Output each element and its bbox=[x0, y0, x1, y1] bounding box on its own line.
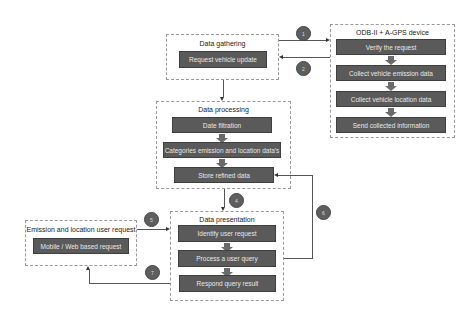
arrow-head-icon bbox=[326, 38, 330, 42]
connector-4-line bbox=[224, 189, 225, 207]
step-identify-request[interactable]: Identify user request bbox=[178, 225, 276, 242]
step-send-info[interactable]: Send collected information bbox=[336, 117, 446, 133]
connector-3-line bbox=[223, 80, 224, 97]
group-user-request: Emission and location user request Mobil… bbox=[25, 220, 137, 266]
step-mobile-web-request[interactable]: Mobile / Web based request bbox=[33, 238, 129, 254]
connector-6-line bbox=[284, 258, 312, 259]
step-store-refined[interactable]: Store refined data bbox=[174, 167, 274, 183]
connector-7-line bbox=[89, 283, 170, 284]
step-request-vehicle-update[interactable]: Request vehicle update bbox=[179, 51, 267, 68]
arrow-head-icon bbox=[274, 173, 278, 177]
group-title: Data processing bbox=[157, 106, 290, 113]
arrow-head-icon bbox=[166, 227, 170, 231]
step-number-badge-4: 4 bbox=[229, 193, 244, 208]
step-respond-result[interactable]: Respond query result bbox=[179, 275, 276, 292]
arrow-head-icon bbox=[221, 207, 225, 211]
connector-6-line bbox=[312, 175, 313, 259]
step-date-filtration[interactable]: Date filtration bbox=[172, 117, 272, 133]
group-title: ODB-II + A-GPS device bbox=[331, 29, 454, 36]
step-categories-data[interactable]: Categories emission and location data's bbox=[163, 142, 281, 158]
step-number-badge-6: 6 bbox=[316, 205, 331, 220]
arrow-head-icon bbox=[86, 266, 90, 270]
group-data-presentation: Data presentation Identify user request … bbox=[170, 211, 284, 301]
connector-5-line bbox=[137, 229, 167, 230]
group-title: Data presentation bbox=[171, 216, 283, 223]
connector-2-line bbox=[283, 57, 330, 58]
step-verify-request[interactable]: Verify the request bbox=[336, 39, 446, 55]
group-odb-device: ODB-II + A-GPS device Verify the request… bbox=[330, 24, 455, 138]
connector-6-line bbox=[278, 175, 313, 176]
step-number-badge-7: 7 bbox=[145, 265, 160, 280]
connector-7-line bbox=[89, 270, 90, 284]
group-title: Data gathering bbox=[167, 40, 278, 47]
step-collect-location[interactable]: Collect vehicle location data bbox=[336, 91, 446, 107]
arrow-head-icon bbox=[220, 97, 224, 101]
step-collect-emission[interactable]: Collect vehicle emission data bbox=[336, 65, 446, 81]
arrow-head-icon bbox=[279, 55, 283, 59]
group-data-gathering: Data gathering Request vehicle update bbox=[166, 34, 279, 80]
step-number-badge-1: 1 bbox=[296, 26, 311, 41]
group-data-processing: Data processing Date filtration Categori… bbox=[156, 101, 291, 189]
group-title: Emission and location user request bbox=[26, 226, 136, 233]
step-process-query[interactable]: Process a user query bbox=[178, 250, 276, 267]
step-number-badge-5: 5 bbox=[144, 212, 159, 227]
step-number-badge-2: 2 bbox=[296, 61, 311, 76]
